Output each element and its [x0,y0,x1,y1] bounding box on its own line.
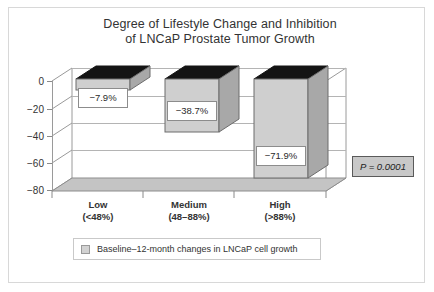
x-category-high-name: High [269,199,290,210]
x-category-high: High (>88%) [245,199,315,223]
legend-color-swatch-icon [81,245,90,254]
x-category-medium-range: (48–88%) [153,211,225,223]
x-category-low: Low (<48%) [63,199,133,223]
x-category-high-range: (>88%) [245,211,315,223]
x-category-medium-name: Medium [171,199,207,210]
x-category-medium: Medium (48–88%) [153,199,225,223]
legend-series-label: Baseline–12-month changes in LNCaP cell … [97,244,297,254]
chart-figure: Degree of Lifestyle Change and Inhibitio… [0,0,434,292]
x-category-low-name: Low [89,199,108,210]
p-value-badge: P = 0.0001 [352,156,414,177]
x-category-low-range: (<48%) [63,211,133,223]
chart-legend: Baseline–12-month changes in LNCaP cell … [73,238,321,260]
